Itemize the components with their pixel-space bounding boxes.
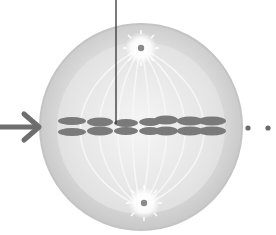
centrosome-top [123,30,159,66]
continuation-dots [245,125,270,130]
centrosome-bottom [126,185,162,221]
arrow-icon [0,114,39,140]
metaphase-diagram [0,0,276,235]
